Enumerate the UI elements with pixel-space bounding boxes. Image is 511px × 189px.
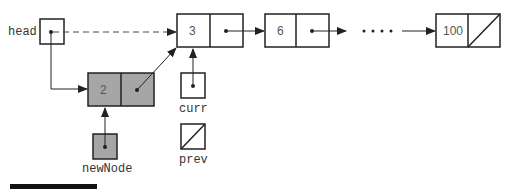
- ellipsis: [363, 30, 393, 33]
- prev-pointer: prev: [179, 124, 208, 167]
- newnode-pointer: newNode: [82, 134, 132, 176]
- node-value: 2: [100, 83, 107, 97]
- node-value: 3: [189, 24, 196, 38]
- node-2-new: 2: [88, 73, 154, 106]
- caption-bar: [10, 184, 97, 189]
- node-value: 6: [277, 24, 284, 38]
- node2-to-node3-arrow: [137, 48, 176, 90]
- curr-label: curr: [179, 102, 208, 116]
- node-value: 100: [443, 24, 463, 38]
- head-label: head: [8, 25, 37, 39]
- newnode-label: newNode: [82, 162, 132, 176]
- linked-list-diagram: head 3 6 100 2: [0, 0, 511, 189]
- prev-label: prev: [179, 153, 208, 167]
- node-100: 100: [436, 14, 500, 47]
